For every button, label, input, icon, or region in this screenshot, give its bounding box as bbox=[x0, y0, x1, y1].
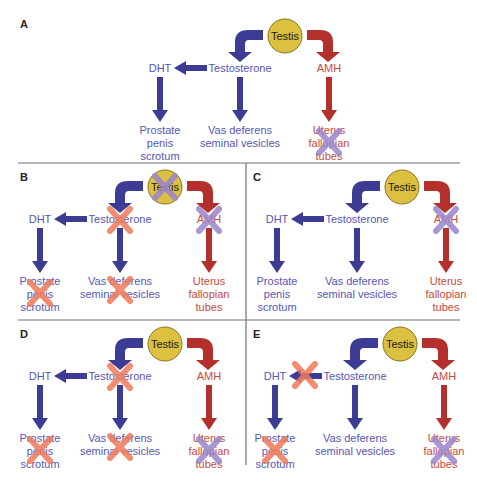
testis-label: Testis bbox=[271, 30, 300, 42]
testis-to-testosterone-arrow bbox=[228, 30, 263, 62]
dht-to-prostate-arrow bbox=[152, 77, 168, 122]
testosterone-to-dht-arrow bbox=[54, 369, 87, 383]
panel-b: BTestisTestosteroneDHTAMHProstatepenissc… bbox=[20, 170, 230, 313]
uterus-label-line: tubes bbox=[196, 301, 223, 313]
testis-to-amh-arrow bbox=[307, 30, 340, 62]
panel-a: ATestisTestosteroneDHTAMHProstatepenissc… bbox=[20, 18, 349, 162]
vas-label: Vas deferensseminal vesicles bbox=[317, 275, 398, 300]
dht-label-line: DHT bbox=[264, 370, 287, 382]
uterus-label: Uterusfallopiantubes bbox=[189, 275, 230, 313]
amh-to-uterus-arrow bbox=[201, 385, 217, 430]
testis-to-amh-arrow bbox=[187, 338, 220, 370]
prostate-label-line: Prostate bbox=[20, 275, 61, 287]
testosterone-label-line: Testosterone bbox=[324, 370, 387, 382]
amh-label: AMH bbox=[317, 62, 342, 74]
panel-label: A bbox=[20, 18, 28, 30]
testosterone-label: Testosterone bbox=[326, 213, 389, 225]
dht-label-line: DHT bbox=[29, 213, 52, 225]
testosterone-label: Testosterone bbox=[324, 370, 387, 382]
prostate-label: Prostatepenisscrotum bbox=[257, 275, 298, 313]
vas-label-line: seminal vesicles bbox=[315, 445, 396, 457]
testosterone-label-line: Testosterone bbox=[209, 62, 272, 74]
uterus-label-line: Uterus bbox=[193, 275, 226, 287]
testosterone-to-vas-arrow bbox=[112, 385, 128, 430]
vas-label-line: Vas deferens bbox=[88, 432, 153, 444]
testosterone-to-vas-arrow bbox=[347, 385, 363, 430]
prostate-label-line: penis bbox=[264, 288, 291, 300]
testosterone-to-vas-arrow bbox=[232, 77, 248, 122]
uterus-label-line: tubes bbox=[433, 301, 460, 313]
dht-label-line: DHT bbox=[29, 370, 52, 382]
prostate-label-line: scrotum bbox=[255, 458, 294, 470]
dht-to-prostate-arrow bbox=[32, 228, 48, 273]
amh-label-line: AMH bbox=[317, 62, 342, 74]
dht-to-prostate-arrow bbox=[269, 228, 285, 273]
prostate-label-line: scrotum bbox=[20, 458, 59, 470]
testosterone-label: Testosterone bbox=[209, 62, 272, 74]
testosterone-to-dht-arrow bbox=[291, 212, 324, 226]
panel-label: E bbox=[253, 328, 260, 340]
vas-label: Vas deferensseminal vesicles bbox=[315, 432, 396, 457]
testis-to-amh-arrow bbox=[422, 338, 455, 370]
testis-to-testosterone-arrow bbox=[343, 338, 378, 370]
pathway-diagram: TestisTestosteroneDHTAMHProstatepenisscr… bbox=[257, 170, 467, 313]
uterus-label-line: fallopian bbox=[426, 288, 467, 300]
amh-to-uterus-arrow bbox=[201, 228, 217, 273]
dht-to-prostate-arrow bbox=[267, 385, 283, 430]
prostate-label-line: Prostate bbox=[140, 124, 181, 136]
vas-label-line: seminal vesicles bbox=[317, 288, 398, 300]
panel-label: D bbox=[20, 328, 28, 340]
pathway-diagram: TestisTestosteroneDHTAMHProstatepenisscr… bbox=[255, 327, 465, 470]
uterus-label-line: Uterus bbox=[430, 275, 463, 287]
sex-differentiation-diagram: ATestisTestosteroneDHTAMHProstatepenissc… bbox=[0, 0, 477, 482]
dht-label: DHT bbox=[264, 370, 287, 382]
panel-e: ETestisTestosteroneDHTAMHProstatepenissc… bbox=[253, 327, 464, 470]
vas-label-line: Vas deferens bbox=[208, 124, 273, 136]
vas-label-line: Vas deferens bbox=[88, 275, 153, 287]
vas-label-line: Vas deferens bbox=[325, 275, 390, 287]
testis-label: Testis bbox=[386, 338, 415, 350]
dht-label-line: DHT bbox=[266, 213, 289, 225]
vas-label-line: seminal vesicles bbox=[200, 137, 281, 149]
testosterone-label-line: Testosterone bbox=[326, 213, 389, 225]
testosterone-to-dht-arrow bbox=[54, 212, 87, 226]
testis-label: Testis bbox=[151, 338, 180, 350]
testis-to-amh-arrow bbox=[187, 181, 220, 213]
testosterone-to-vas-arrow bbox=[349, 228, 365, 273]
pathway-diagram: TestisTestosteroneDHTAMHProstatepenisscr… bbox=[20, 327, 230, 470]
amh-label: AMH bbox=[197, 370, 222, 382]
panels-container: ATestisTestosteroneDHTAMHProstatepenissc… bbox=[20, 18, 467, 470]
prostate-label-line: Prostate bbox=[257, 275, 298, 287]
pathway-diagram: TestisTestosteroneDHTAMHProstatepenisscr… bbox=[20, 170, 230, 313]
amh-to-uterus-arrow bbox=[438, 228, 454, 273]
uterus-label: Uterusfallopiantubes bbox=[426, 275, 467, 313]
testis-label: Testis bbox=[388, 181, 417, 193]
testosterone-to-vas-arrow bbox=[112, 228, 128, 273]
dht-label: DHT bbox=[29, 213, 52, 225]
panel-frame bbox=[18, 163, 460, 465]
dht-label: DHT bbox=[29, 370, 52, 382]
testis-to-amh-arrow bbox=[424, 181, 457, 213]
dht-to-prostate-arrow bbox=[32, 385, 48, 430]
panel-label: C bbox=[253, 171, 261, 183]
amh-label-line: AMH bbox=[197, 370, 222, 382]
panel-d: DTestisTestosteroneDHTAMHProstatepenissc… bbox=[20, 327, 230, 470]
panel-c: CTestisTestosteroneDHTAMHProstatepenissc… bbox=[253, 170, 466, 313]
amh-to-uterus-arrow bbox=[436, 385, 452, 430]
prostate-label: Prostatepenisscrotum bbox=[140, 124, 181, 162]
testis-to-testosterone-arrow bbox=[345, 181, 380, 213]
vas-label: Vas deferensseminal vesicles bbox=[200, 124, 281, 149]
vas-label-line: Vas deferens bbox=[323, 432, 388, 444]
panel-label: B bbox=[20, 171, 28, 183]
pathway-diagram: TestisTestosteroneDHTAMHProstatepenisscr… bbox=[140, 19, 350, 162]
prostate-label-line: scrotum bbox=[20, 301, 59, 313]
dht-label: DHT bbox=[149, 62, 172, 74]
prostate-label-line: Prostate bbox=[255, 432, 296, 444]
uterus-label-line: fallopian bbox=[189, 288, 230, 300]
dht-label-line: DHT bbox=[149, 62, 172, 74]
dht-label: DHT bbox=[266, 213, 289, 225]
prostate-label-line: Prostate bbox=[20, 432, 61, 444]
prostate-label-line: scrotum bbox=[140, 150, 179, 162]
amh-to-uterus-arrow bbox=[321, 77, 337, 122]
prostate-label-line: penis bbox=[147, 137, 174, 149]
